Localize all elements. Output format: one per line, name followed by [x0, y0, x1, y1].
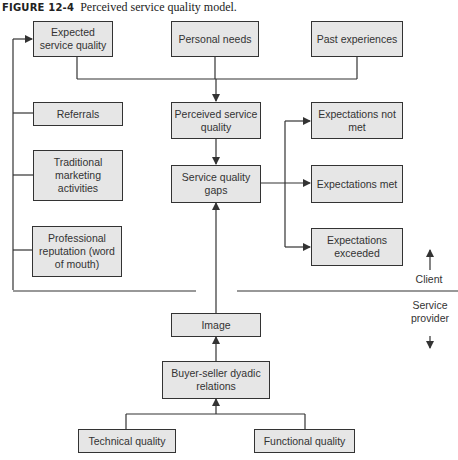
node-personal-needs: Personal needs [171, 21, 259, 57]
node-buyer-seller-relations: Buyer-seller dyadic relations [162, 361, 270, 399]
node-image: Image [171, 313, 261, 337]
node-service-quality-gaps: Service quality gaps [171, 165, 261, 203]
node-perceived-service-quality: Perceived service quality [171, 102, 261, 139]
node-traditional-marketing: Traditional marketing activities [33, 150, 123, 201]
node-functional-quality: Functional quality [254, 429, 355, 453]
node-expected-service-quality: Expected service quality [33, 21, 113, 57]
node-technical-quality: Technical quality [78, 429, 176, 453]
node-expectations-not-met: Expectations not met [311, 102, 403, 139]
node-expectations-met: Expectations met [311, 165, 403, 203]
label-client: Client [400, 273, 458, 286]
node-referrals: Referrals [33, 102, 123, 126]
node-professional-reputation: Professional reputation (word of mouth) [32, 226, 122, 277]
label-service-provider: Service provider [404, 299, 456, 325]
node-expectations-exceeded: Expectations exceeded [311, 228, 403, 266]
node-past-experiences: Past experiences [311, 21, 403, 57]
